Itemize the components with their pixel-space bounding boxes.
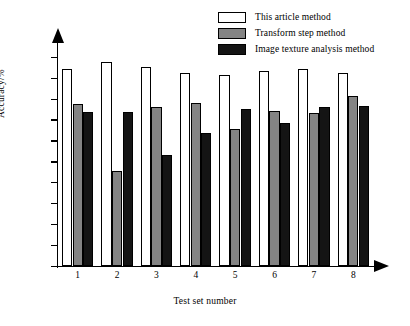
bar-group bbox=[101, 50, 132, 266]
bar bbox=[83, 112, 93, 266]
x-axis-arrow bbox=[374, 260, 389, 272]
legend-item-transform-step-method: Transform step method bbox=[218, 28, 374, 39]
chart-legend: This article method Transform step metho… bbox=[218, 12, 374, 55]
bar bbox=[73, 104, 83, 266]
bar bbox=[112, 171, 122, 266]
bar bbox=[359, 106, 369, 266]
bar-group bbox=[180, 50, 211, 266]
bar-group bbox=[338, 50, 369, 266]
bar bbox=[241, 109, 251, 266]
y-axis-tick bbox=[51, 266, 57, 267]
bar bbox=[298, 69, 308, 266]
bar-group bbox=[219, 50, 250, 266]
legend-label-transform-step-method: Transform step method bbox=[255, 28, 345, 39]
bar bbox=[338, 73, 348, 266]
x-axis-tick-label: 1 bbox=[68, 270, 88, 280]
bar bbox=[162, 155, 172, 266]
bar bbox=[219, 75, 229, 266]
bar-group bbox=[62, 50, 93, 266]
bar bbox=[180, 73, 190, 266]
bar-group bbox=[259, 50, 290, 266]
bar bbox=[280, 123, 290, 266]
bar bbox=[201, 133, 211, 266]
y-axis-title: Accuracy/% bbox=[0, 69, 6, 118]
bar bbox=[62, 69, 72, 266]
x-axis-tick-label: 2 bbox=[107, 270, 127, 280]
bar bbox=[309, 113, 319, 266]
bar-group bbox=[141, 50, 172, 266]
x-axis-line bbox=[57, 266, 375, 267]
x-axis-tick-label: 6 bbox=[265, 270, 285, 280]
bar bbox=[319, 107, 329, 266]
bar bbox=[123, 112, 133, 266]
legend-swatch-gray bbox=[218, 28, 246, 39]
bar-chart: This article method Transform step metho… bbox=[0, 0, 410, 326]
legend-label-this-article-method: This article method bbox=[255, 12, 331, 23]
x-axis-tick-label: 8 bbox=[343, 270, 363, 280]
bar bbox=[259, 71, 269, 266]
bar bbox=[269, 111, 279, 266]
bar bbox=[348, 96, 358, 266]
bar bbox=[101, 62, 111, 266]
x-axis-tick-label: 4 bbox=[186, 270, 206, 280]
x-axis-tick-label: 7 bbox=[304, 270, 324, 280]
bar-group bbox=[298, 50, 329, 266]
legend-swatch-white bbox=[218, 12, 246, 23]
bar bbox=[151, 107, 161, 266]
bar bbox=[230, 129, 240, 266]
bar-groups bbox=[57, 50, 375, 266]
bar bbox=[141, 67, 151, 266]
x-axis-tick-label: 5 bbox=[225, 270, 245, 280]
x-axis-title: Test set number bbox=[0, 296, 410, 306]
bar bbox=[191, 103, 201, 266]
x-axis-tick-label: 3 bbox=[146, 270, 166, 280]
legend-item-this-article-method: This article method bbox=[218, 12, 374, 23]
